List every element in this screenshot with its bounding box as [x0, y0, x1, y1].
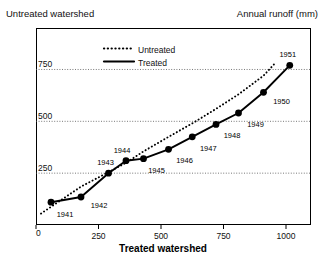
x-tick-label-250: 250 [91, 231, 105, 241]
series-line-treated [51, 65, 290, 202]
data-point-1950 [260, 89, 267, 96]
data-point-1949 [235, 110, 242, 117]
legend-label-untreated: Untreated [138, 45, 175, 55]
data-point-1944 [123, 157, 130, 164]
point-label-1944: 1944 [114, 145, 131, 154]
data-point-1948 [213, 121, 220, 128]
legend-label-treated: Treated [138, 58, 167, 68]
data-point-1945 [140, 155, 147, 162]
point-label-1949: 1949 [247, 120, 264, 129]
data-point-1941 [48, 199, 55, 206]
x-tick-label-1000: 1000 [277, 231, 296, 241]
point-label-1951: 1951 [279, 50, 296, 59]
x-tick-label-750: 750 [216, 231, 230, 241]
x-axis-title: Treated watershed [0, 243, 326, 254]
point-label-1945: 1945 [148, 165, 165, 174]
point-label-1948: 1948 [224, 131, 241, 140]
x-tick-label-500: 500 [154, 231, 168, 241]
y-tick-label-500: 500 [38, 111, 52, 121]
chart-svg [0, 0, 326, 264]
data-point-1946 [165, 146, 172, 153]
point-label-1947: 1947 [200, 143, 217, 152]
point-label-1950: 1950 [273, 97, 290, 106]
point-label-1946: 1946 [176, 156, 193, 165]
point-label-1942: 1942 [91, 201, 108, 210]
data-point-1942 [78, 194, 85, 201]
point-label-1941: 1941 [57, 210, 74, 219]
series-line-untreated [41, 62, 276, 213]
y-tick-label-250: 250 [38, 163, 52, 173]
y-tick-label-750: 750 [38, 59, 52, 69]
data-point-1947 [189, 133, 196, 140]
data-point-1943 [105, 170, 112, 177]
figure-container: Untreated watershed Annual runoff (mm) 0… [0, 0, 326, 264]
y-tick-label-0: 0 [36, 228, 41, 238]
data-point-1951 [286, 62, 293, 69]
point-label-1943: 1943 [97, 158, 114, 167]
